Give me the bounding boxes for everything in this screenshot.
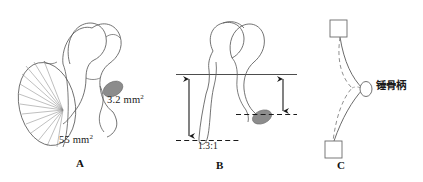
stapes-footplate-icon-b bbox=[250, 107, 273, 127]
malleus-icon bbox=[63, 23, 107, 124]
membrane-curve-solid bbox=[334, 37, 363, 141]
figure-root: 3.2 mm2 55 mm2 1.3:1 锤骨柄 A B C bbox=[0, 0, 423, 182]
panel-c-graphic bbox=[325, 20, 372, 158]
panel-a-graphic bbox=[11, 23, 126, 151]
tympanic-membrane-area-label: 55 mm2 bbox=[59, 135, 93, 146]
lever-ratio-label: 1.3:1 bbox=[198, 142, 218, 152]
bottom-anchor-square bbox=[325, 141, 342, 158]
stapes-footplate-area-label: 3.2 mm2 bbox=[107, 95, 144, 106]
panel-letter-b: B bbox=[216, 160, 223, 171]
membrane-curve-dashed bbox=[333, 37, 352, 141]
panel-letter-a: A bbox=[76, 158, 84, 169]
panel-b-graphic bbox=[176, 22, 297, 145]
top-anchor-square bbox=[330, 20, 347, 37]
manubrium-label: 锤骨柄 bbox=[376, 80, 406, 91]
manubrium-circle-icon bbox=[360, 82, 372, 97]
figure-canvas bbox=[0, 0, 423, 182]
panel-letter-c: C bbox=[337, 160, 345, 171]
